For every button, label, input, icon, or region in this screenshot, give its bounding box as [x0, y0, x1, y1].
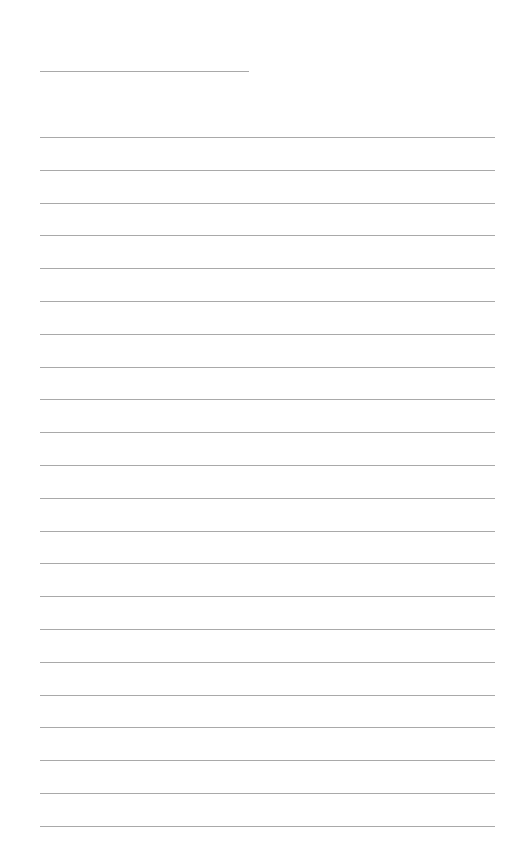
ruled-line — [40, 268, 495, 269]
ruled-line — [40, 563, 495, 564]
ruled-line — [40, 695, 495, 696]
ruled-line — [40, 760, 495, 761]
header-rule — [40, 71, 249, 72]
ruled-line — [40, 793, 495, 794]
ruled-line — [40, 662, 495, 663]
ruled-line — [40, 629, 495, 630]
ruled-line — [40, 235, 495, 236]
ruled-line — [40, 432, 495, 433]
ruled-line — [40, 531, 495, 532]
ruled-line — [40, 137, 495, 138]
ruled-line — [40, 498, 495, 499]
ruled-line — [40, 170, 495, 171]
ruled-line — [40, 826, 495, 827]
ruled-line — [40, 301, 495, 302]
ruled-line — [40, 727, 495, 728]
ruled-line — [40, 203, 495, 204]
ruled-line — [40, 596, 495, 597]
ruled-line — [40, 399, 495, 400]
ruled-line — [40, 367, 495, 368]
ruled-line — [40, 334, 495, 335]
ruled-line — [40, 465, 495, 466]
